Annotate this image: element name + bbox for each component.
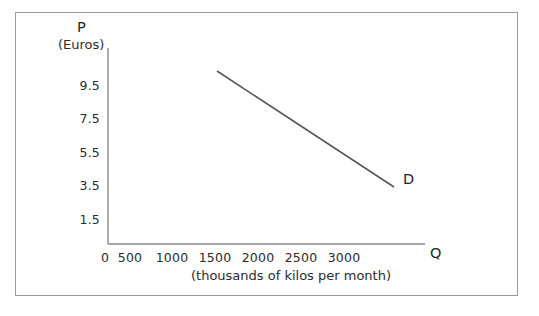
x-tick-label: 3000 bbox=[324, 252, 364, 265]
x-tick-label: 500 bbox=[112, 252, 148, 265]
demand-curve-label: D bbox=[403, 172, 414, 187]
x-axis-caption: (thousands of kilos per month) bbox=[161, 269, 421, 282]
x-tick-label: 1000 bbox=[152, 252, 192, 265]
x-tick-label: 1500 bbox=[195, 252, 235, 265]
y-axis-title-euros: (Euros) bbox=[58, 38, 104, 51]
x-axis-title-q: Q bbox=[430, 246, 441, 261]
y-tick-label: 3.5 bbox=[64, 180, 100, 193]
y-axis-title-p: P bbox=[77, 20, 86, 35]
y-tick-label: 9.5 bbox=[64, 80, 100, 93]
y-tick-label: 5.5 bbox=[64, 147, 100, 160]
y-tick-label: 7.5 bbox=[64, 113, 100, 126]
x-tick-label: 2500 bbox=[281, 252, 321, 265]
y-tick-label: 1.5 bbox=[64, 214, 100, 227]
x-tick-label: 2000 bbox=[238, 252, 278, 265]
figure-container: P (Euros) 9.5 7.5 5.5 3.5 1.5 0 500 1000… bbox=[0, 0, 539, 316]
